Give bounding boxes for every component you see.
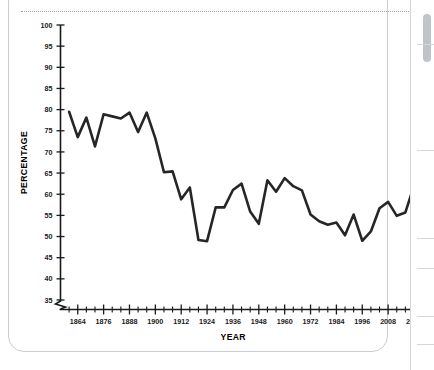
line-chart: 3540455055606570758085909510018641876188… — [0, 0, 434, 370]
y-tick-label: 65 — [45, 169, 53, 178]
x-tick-label: 1888 — [121, 317, 137, 326]
y-tick-label: 35 — [45, 296, 53, 305]
right-panel-strip — [410, 0, 434, 370]
y-tick-label: 55 — [45, 211, 53, 220]
strip-divider — [417, 44, 434, 45]
y-tick-label: 80 — [45, 105, 53, 114]
strip-divider — [417, 238, 434, 239]
x-tick-label: 1996 — [354, 317, 370, 326]
vertical-scrollbar-thumb[interactable] — [423, 14, 431, 62]
x-tick-label: 1984 — [328, 317, 344, 326]
y-tick-label: 40 — [45, 274, 53, 283]
x-tick-label: 1912 — [173, 317, 189, 326]
strip-divider — [417, 150, 434, 151]
y-tick-label: 85 — [45, 84, 53, 93]
y-tick-label: 100 — [41, 21, 53, 30]
x-tick-label: 1972 — [303, 317, 319, 326]
y-tick-label: 95 — [45, 42, 53, 51]
x-tick-label: 1864 — [70, 317, 86, 326]
page-root: 3540455055606570758085909510018641876188… — [0, 0, 434, 370]
y-tick-label: 75 — [45, 126, 53, 135]
x-tick-label: 1924 — [199, 317, 215, 326]
data-series-line — [69, 112, 414, 241]
x-tick-label: 1936 — [225, 317, 241, 326]
x-tick-label: 1960 — [277, 317, 293, 326]
chart-svg: 3540455055606570758085909510018641876188… — [0, 0, 434, 370]
strip-divider — [417, 268, 434, 269]
y-tick-label: 70 — [45, 148, 53, 157]
y-tick-label: 50 — [45, 232, 53, 241]
x-tick-label: 1876 — [96, 317, 112, 326]
y-tick-label: 60 — [45, 190, 53, 199]
y-axis-break-symbol — [56, 301, 66, 309]
x-tick-label: 2008 — [380, 317, 396, 326]
x-tick-label: 1948 — [251, 317, 267, 326]
x-axis-title: YEAR — [221, 332, 247, 342]
y-axis-title: PERCENTAGE — [19, 131, 29, 194]
y-tick-label: 45 — [45, 253, 53, 262]
strip-divider — [417, 344, 434, 345]
x-tick-label: 1900 — [147, 317, 163, 326]
strip-divider — [417, 316, 434, 317]
y-tick-label: 90 — [45, 63, 53, 72]
